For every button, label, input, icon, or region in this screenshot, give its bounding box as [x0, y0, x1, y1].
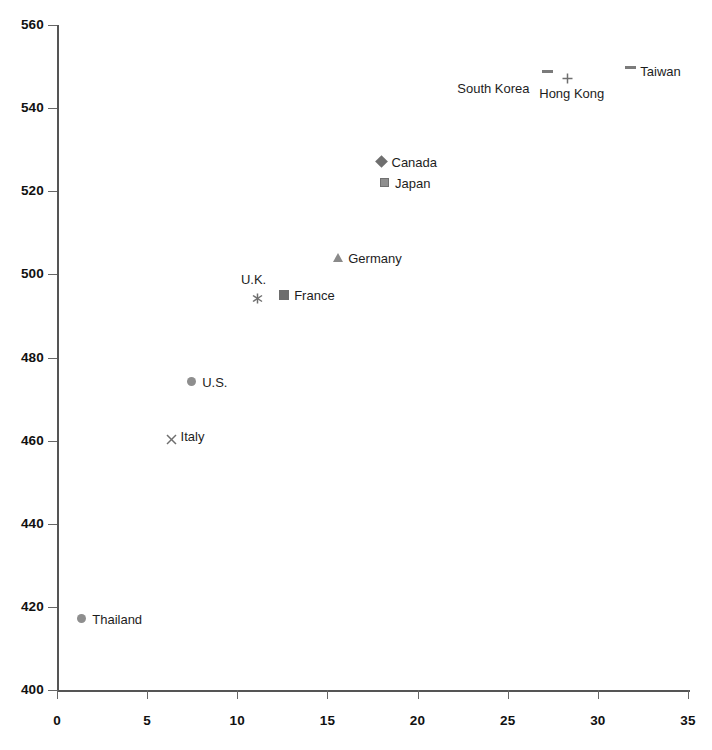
data-point-marker[interactable] [166, 431, 177, 442]
x-tick-mark [237, 690, 238, 699]
y-tick-label: 460 [0, 434, 44, 448]
scatter-chart: 400420440460480500520540560 051015202530… [0, 0, 712, 750]
data-point-marker[interactable] [279, 290, 289, 300]
data-point-label: U.K. [241, 273, 266, 286]
data-point-marker[interactable] [562, 70, 573, 81]
x-tick-mark [418, 690, 419, 699]
y-tick-label: 440 [0, 517, 44, 531]
y-tick-mark [48, 441, 57, 442]
y-tick-label: 560 [0, 18, 44, 32]
x-axis-line [57, 690, 690, 692]
data-point-label: Japan [395, 177, 430, 190]
x-tick-mark [508, 690, 509, 699]
x-tick-mark [147, 690, 148, 699]
data-point-marker[interactable] [333, 253, 343, 262]
y-tick-label: 420 [0, 600, 44, 614]
data-point-marker[interactable] [252, 290, 263, 301]
y-tick-mark [48, 108, 57, 109]
y-tick-mark [48, 524, 57, 525]
x-tick-mark [57, 690, 58, 699]
data-point-label: Hong Kong [539, 87, 604, 100]
y-tick-label: 520 [0, 184, 44, 198]
data-point-marker[interactable] [542, 70, 553, 73]
y-tick-label: 540 [0, 101, 44, 115]
y-tick-mark [48, 607, 57, 608]
data-point-label: South Korea [457, 82, 529, 95]
data-point-marker[interactable] [187, 377, 196, 386]
y-tick-mark [48, 191, 57, 192]
data-point-label: Germany [348, 252, 401, 265]
x-tick-label: 0 [37, 714, 77, 728]
y-tick-mark [48, 358, 57, 359]
y-tick-label: 480 [0, 351, 44, 365]
x-tick-label: 30 [578, 714, 618, 728]
data-point-label: U.S. [202, 376, 227, 389]
x-tick-mark [598, 690, 599, 699]
data-point-marker[interactable] [380, 178, 389, 187]
y-tick-mark [48, 25, 57, 26]
data-point-marker[interactable] [77, 614, 86, 623]
data-point-label: Canada [392, 156, 438, 169]
y-tick-label: 500 [0, 267, 44, 281]
y-axis-line [57, 25, 59, 692]
x-tick-label: 20 [398, 714, 438, 728]
data-point-label: Thailand [92, 613, 142, 626]
y-tick-mark [48, 690, 57, 691]
x-tick-mark [327, 690, 328, 699]
x-tick-label: 5 [127, 714, 167, 728]
x-tick-label: 35 [668, 714, 708, 728]
x-tick-label: 15 [307, 714, 347, 728]
x-tick-label: 10 [217, 714, 257, 728]
x-tick-mark [688, 690, 689, 699]
data-point-label: France [294, 289, 334, 302]
y-tick-mark [48, 274, 57, 275]
data-point-label: Taiwan [640, 65, 680, 78]
data-point-marker[interactable] [375, 155, 388, 168]
data-point-label: Italy [181, 430, 205, 443]
x-tick-label: 25 [488, 714, 528, 728]
y-tick-label: 400 [0, 683, 44, 697]
data-point-marker[interactable] [625, 66, 636, 69]
